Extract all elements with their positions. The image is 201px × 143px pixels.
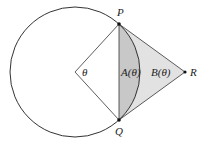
point-p (117, 22, 121, 26)
radius-op (75, 24, 119, 72)
label-b: B(θ) (151, 66, 171, 79)
label-q: Q (115, 125, 123, 137)
label-a: A(θ) (120, 66, 141, 79)
label-p: P (116, 6, 124, 18)
point-q (117, 118, 121, 122)
label-theta: θ (82, 66, 88, 78)
circle-diagram: P Q R θ A(θ) B(θ) (0, 0, 201, 143)
label-r: R (189, 66, 197, 78)
point-r (183, 70, 186, 73)
radius-oq (75, 72, 119, 120)
